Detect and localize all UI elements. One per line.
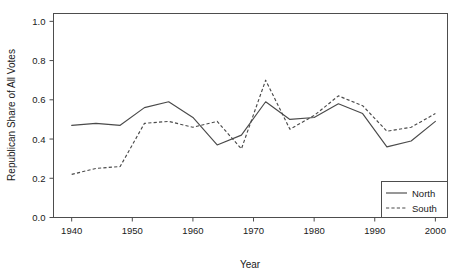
x-tick-label: 1940 <box>61 225 82 236</box>
x-tick-label: 2000 <box>425 225 446 236</box>
x-tick-label: 1950 <box>122 225 143 236</box>
x-tick-label: 1970 <box>243 225 264 236</box>
y-tick-label: 1.0 <box>32 16 45 27</box>
x-axis-ticks: 1940195019601970198019902000 <box>61 218 446 236</box>
y-axis-title: Republican Share of All Votes <box>6 49 17 181</box>
chart-plot-area: 0.00.20.40.60.81.0 194019501960197019801… <box>0 0 462 278</box>
legend-label-south: South <box>412 203 437 214</box>
x-axis-title: Year <box>240 259 261 270</box>
legend-label-north: North <box>412 188 435 199</box>
x-tick-label: 1990 <box>364 225 385 236</box>
y-tick-label: 0.2 <box>32 173 45 184</box>
x-tick-label: 1980 <box>304 225 325 236</box>
chart-figure: 0.00.20.40.60.81.0 194019501960197019801… <box>0 0 462 278</box>
series-line-south <box>72 80 436 174</box>
y-tick-label: 0.8 <box>32 55 45 66</box>
chart-legend: North South <box>382 182 448 218</box>
y-tick-label: 0.4 <box>32 134 45 145</box>
y-tick-label: 0.0 <box>32 212 45 223</box>
y-tick-label: 0.6 <box>32 94 45 105</box>
y-axis-ticks: 0.00.20.40.60.81.0 <box>32 16 53 223</box>
x-tick-label: 1960 <box>182 225 203 236</box>
